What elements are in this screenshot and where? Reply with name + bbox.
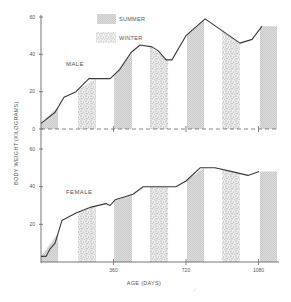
summer-band: [41, 233, 58, 262]
x-tick-label: 720: [182, 267, 191, 273]
x-ticks: 3607201080: [109, 126, 264, 273]
male-season-bands: [41, 20, 277, 129]
winter-band: [78, 206, 96, 262]
female-season-bands: [41, 168, 277, 262]
legend-summer-swatch: [97, 14, 116, 24]
legend-winter-label: WINTER: [119, 35, 143, 41]
summer-band: [114, 195, 132, 262]
summer-band: [187, 20, 204, 129]
legend: SUMMER WINTER: [96, 14, 145, 43]
y-tick-label: 40: [29, 183, 35, 189]
stray-mark: /: [194, 287, 196, 293]
summer-band: [260, 26, 277, 129]
winter-band: [222, 31, 240, 129]
winter-band: [150, 187, 168, 262]
female-panel-label: FEMALE: [66, 189, 92, 195]
body-weight-chart: SUMMER WINTER 0204060204060 3607201080 M…: [0, 0, 291, 302]
y-tick-label: 60: [29, 146, 35, 152]
x-tick-label: 360: [109, 267, 118, 273]
summer-band: [187, 168, 204, 262]
summer-band: [114, 52, 132, 129]
winter-band: [222, 169, 240, 262]
legend-winter-swatch: [96, 32, 116, 43]
legend-summer-label: SUMMER: [119, 16, 145, 22]
x-axis-title: AGE (DAYS): [127, 280, 161, 286]
y-tick-label: 60: [29, 14, 35, 20]
male-panel-label: MALE: [66, 61, 84, 67]
y-tick-label: 0: [32, 126, 35, 132]
y-tick-label: 40: [29, 51, 35, 57]
y-axis-title: BODY WEIGHT (KILOGRAMS): [13, 101, 19, 185]
x-tick-label: 1080: [253, 267, 264, 273]
summer-band: [260, 172, 277, 262]
y-tick-label: 20: [29, 221, 35, 227]
y-tick-label: 20: [29, 88, 35, 94]
